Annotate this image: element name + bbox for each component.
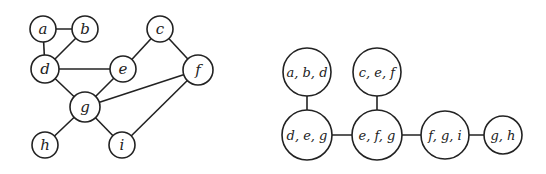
graph-node-d: d — [31, 55, 59, 83]
graph-node-g: g — [70, 92, 100, 122]
graph-node-b: b — [72, 16, 98, 42]
clique-node-label: c, e, f — [359, 65, 398, 80]
diagram-canvas: abcdefghi a, b, dc, e, fd, e, ge, f, gf,… — [0, 0, 546, 174]
graph-node-a: a — [30, 16, 56, 42]
graph-node-i: i — [109, 132, 135, 158]
clique-node-label: d, e, g — [287, 128, 328, 143]
graph-edge-f-i — [122, 70, 198, 145]
clique-tree-edges — [307, 72, 503, 135]
graph-edges — [43, 29, 198, 145]
clique-node-cef: c, e, f — [353, 48, 401, 96]
graph-node-h: h — [32, 132, 58, 158]
graph-node-label: h — [40, 136, 50, 154]
graph-node-label: c — [156, 20, 165, 38]
clique-node-abd: a, b, d — [283, 48, 331, 96]
graph-node-label: a — [39, 20, 48, 38]
clique-node-label: g, h — [491, 128, 516, 143]
graph-node-label: d — [40, 60, 50, 78]
clique-node-fgi: f, g, i — [421, 111, 469, 159]
clique-tree-nodes: a, b, dc, e, fd, e, ge, f, gf, g, ig, h — [282, 48, 522, 160]
clique-node-label: e, f, g — [359, 128, 396, 143]
graph-node-f: f — [183, 55, 213, 85]
clique-node-label: a, b, d — [287, 65, 328, 80]
graph-node-label: g — [80, 98, 90, 116]
graph-nodes: abcdefghi — [30, 16, 213, 158]
graph-node-label: i — [120, 136, 125, 154]
clique-node-efg: e, f, g — [352, 110, 402, 160]
clique-node-label: f, g, i — [427, 128, 461, 143]
clique-node-deg: d, e, g — [282, 110, 332, 160]
graph-node-label: e — [119, 60, 128, 78]
clique-node-gh: g, h — [484, 116, 522, 154]
graph-node-c: c — [147, 16, 173, 42]
graph-edge-f-g — [85, 70, 198, 107]
graph-node-e: e — [110, 56, 136, 82]
graph-node-label: b — [80, 20, 90, 38]
